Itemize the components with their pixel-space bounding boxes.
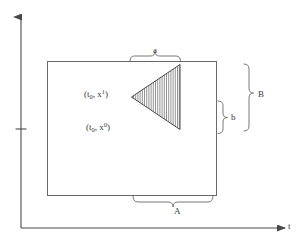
point-label-x1-mid: , x — [93, 89, 102, 99]
figure-drawing — [0, 0, 301, 243]
figure-container: (t0, x1) (t0, x0) a b A B t — [0, 0, 301, 243]
point-label-x1-sub: 0 — [90, 93, 93, 100]
point-label-x0: (t0, x0) — [86, 123, 110, 132]
brace-a-label: a — [153, 46, 157, 55]
point-label-x1-close: ) — [105, 89, 108, 99]
point-label-x1-base: (t — [84, 89, 90, 99]
point-label-x1: (t0, x1) — [84, 90, 108, 99]
axis-group — [16, 17, 286, 228]
point-label-x0-close: ) — [107, 122, 110, 132]
brace-B — [244, 64, 254, 131]
t-axis-label: t — [288, 222, 291, 231]
domain-rectangle — [48, 62, 217, 196]
point-label-x1-sup: 1 — [102, 88, 105, 95]
point-label-x0-base: (t — [86, 122, 92, 132]
brace-A-label: A — [174, 207, 181, 216]
brace-B-label: B — [258, 90, 264, 99]
point-label-x0-sub: 0 — [92, 126, 95, 133]
hatched-cone — [132, 60, 181, 134]
brace-b-label: b — [231, 113, 236, 122]
point-label-x0-sup: 0 — [104, 121, 107, 128]
brace-A — [133, 196, 213, 207]
point-label-x0-mid: , x — [95, 122, 104, 132]
brace-b — [218, 101, 228, 134]
cone-hatching — [134, 60, 180, 134]
